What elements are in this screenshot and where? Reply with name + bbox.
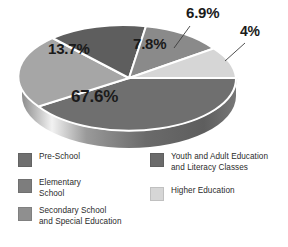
pie-chart-figure: 67.6% 13.7% 7.8% 6.9% 4% Pre-School Elem… (0, 0, 288, 247)
legend-item-higher-education: Higher Education (150, 186, 286, 201)
legend-label-pre-school: Pre-School (39, 152, 80, 163)
pie-value-label-elementary-school: 13.7% (48, 41, 90, 56)
legend-item-elementary-school: ElementarySchool (18, 178, 144, 199)
legend-item-youth-adult-education: Youth and Adult Educationand Literacy Cl… (150, 152, 286, 173)
legend-label-elementary-school: ElementarySchool (39, 178, 81, 199)
legend-item-pre-school: Pre-School (18, 152, 144, 167)
legend-label-secondary-school: Secondary Schooland Special Education (39, 206, 122, 227)
legend-item-secondary-school: Secondary Schooland Special Education (18, 206, 144, 227)
legend-label-higher-education: Higher Education (171, 186, 235, 197)
legend-swatch-elementary-school (18, 179, 32, 193)
legend-column-right: Youth and Adult Educationand Literacy Cl… (150, 152, 286, 209)
pie-chart-graphic: 67.6% 13.7% 7.8% 6.9% 4% (0, 0, 288, 150)
pie-value-label-higher-education: 4% (240, 24, 260, 38)
pie-value-label-youth-adult-education: 6.9% (186, 5, 219, 20)
pie-value-label-pre-school: 67.6% (71, 88, 118, 105)
pie-value-label-secondary-school: 7.8% (133, 36, 166, 51)
legend-swatch-secondary-school (18, 207, 32, 221)
legend-swatch-youth-adult-education (150, 153, 164, 167)
chart-legend: Pre-School ElementarySchool Secondary Sc… (0, 152, 288, 247)
leader-line-4 (225, 43, 245, 61)
legend-column-left: Pre-School ElementarySchool Secondary Sc… (18, 152, 144, 235)
legend-swatch-higher-education (150, 187, 164, 201)
legend-swatch-pre-school (18, 153, 32, 167)
legend-label-youth-adult-education: Youth and Adult Educationand Literacy Cl… (171, 152, 268, 173)
